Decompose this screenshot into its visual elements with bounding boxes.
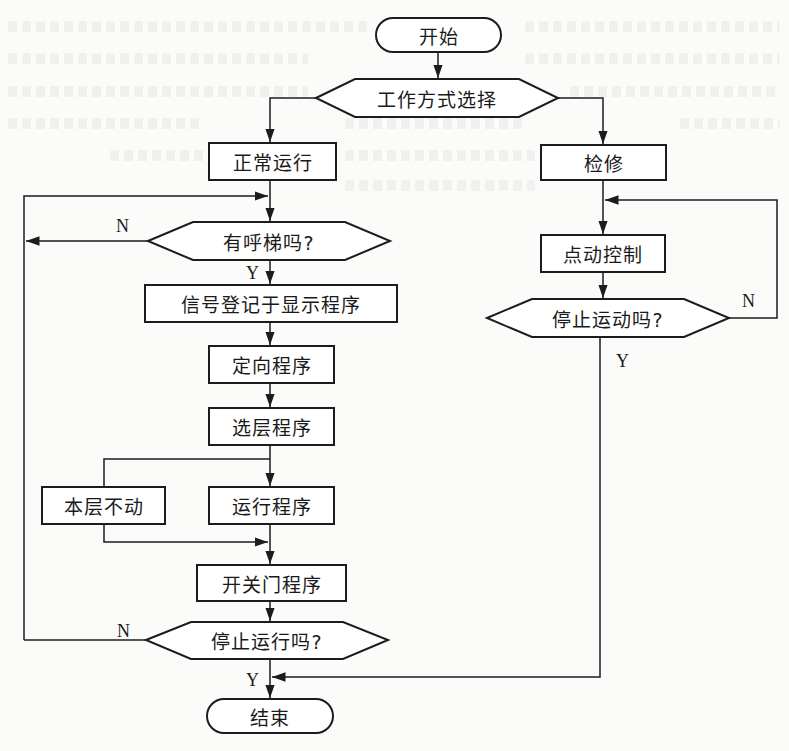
node-stop-running-label: 停止运行吗? bbox=[146, 622, 388, 659]
branch-label-stoprunning-no: N bbox=[117, 622, 130, 640]
node-door-program-label: 开关门程序 bbox=[197, 565, 346, 601]
branch-label-stoprunning-yes: Y bbox=[246, 671, 259, 689]
node-maintenance-label: 检修 bbox=[541, 145, 666, 180]
node-normal-run-label: 正常运行 bbox=[209, 143, 336, 180]
node-stay-floor-label: 本层不动 bbox=[42, 487, 165, 524]
node-mode-select-label: 工作方式选择 bbox=[316, 79, 558, 117]
node-end-label: 结束 bbox=[207, 699, 333, 733]
edge-mode-to-maintenance bbox=[558, 98, 603, 144]
node-direction-label: 定向程序 bbox=[209, 346, 334, 383]
branch-label-stopmotion-no: N bbox=[742, 292, 755, 310]
node-run-program-label: 运行程序 bbox=[209, 487, 334, 524]
branch-label-stopmotion-yes: Y bbox=[616, 352, 629, 370]
diagram-canvas: 开始 工作方式选择 正常运行 检修 有呼梯吗? 信号登记于显示程序 定向程序 选… bbox=[0, 0, 789, 751]
node-stop-motion-label: 停止运动吗? bbox=[487, 299, 729, 337]
edge-stay-to-merge bbox=[104, 524, 268, 542]
edge-mode-to-normal bbox=[270, 98, 316, 142]
node-has-call-label: 有呼梯吗? bbox=[148, 222, 390, 260]
edge-floorselect-to-stay bbox=[104, 459, 270, 487]
node-signal-register-label: 信号登记于显示程序 bbox=[145, 285, 397, 322]
branch-label-hascall-no: N bbox=[116, 217, 129, 235]
node-start-label: 开始 bbox=[376, 18, 501, 52]
node-jog-control-label: 点动控制 bbox=[541, 235, 665, 272]
node-floor-select-label: 选层程序 bbox=[209, 408, 334, 445]
branch-label-hascall-yes: Y bbox=[246, 264, 259, 282]
